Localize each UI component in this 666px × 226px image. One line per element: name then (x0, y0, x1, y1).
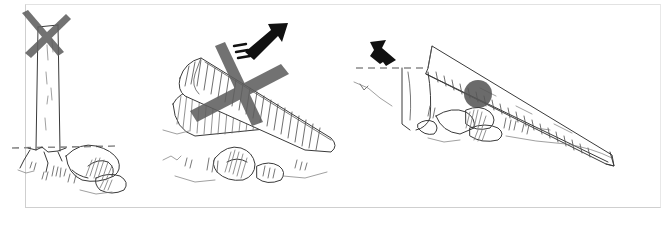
grass-tufts (30, 162, 76, 183)
pivot-point (464, 80, 492, 108)
rock-shading (225, 150, 247, 178)
panel-log-tipping-incorrect (155, 0, 345, 226)
illustration-stage (0, 0, 666, 226)
x-mark (22, 10, 71, 58)
motion-arrow-up-right (234, 23, 288, 60)
motion-arrow-down-right (370, 40, 396, 66)
panel-log-lowered-correct (340, 0, 666, 226)
rocks (66, 145, 126, 193)
panel-upright-post-incorrect (0, 0, 180, 226)
post-base-ground (20, 147, 66, 172)
